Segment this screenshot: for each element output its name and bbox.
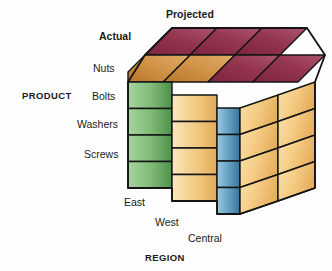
front-column-west: [172, 95, 217, 201]
data-cube-figure: Projected Actual PRODUCT Nuts Bolts Wash…: [0, 0, 332, 271]
measure-label-projected: Projected: [166, 8, 214, 20]
cell-central-washers: [217, 161, 240, 188]
right-side-face: [240, 82, 315, 214]
product-tick-screws: Screws: [84, 148, 118, 160]
axis-label-region: REGION: [145, 252, 185, 263]
front-column-central: [217, 108, 240, 214]
product-tick-washers: Washers: [77, 118, 118, 130]
top-face-projected-row-step: [163, 55, 325, 82]
cube-svg: [0, 0, 332, 271]
cell-east-washers: [128, 135, 172, 162]
cell-central-screws: [217, 188, 240, 215]
region-tick-central: Central: [188, 232, 222, 244]
cell-west-washers: [172, 148, 217, 175]
cell-central-bolts: [217, 135, 240, 162]
region-tick-west: West: [155, 216, 179, 228]
cell-east-nuts: [128, 82, 172, 109]
front-column-east: [128, 82, 172, 188]
cell-west-screws: [172, 175, 217, 202]
cell-east-screws: [128, 162, 172, 189]
cell-west-bolts: [172, 122, 217, 149]
measure-label-actual: Actual: [99, 30, 131, 42]
cell-east-bolts: [128, 109, 172, 136]
top-face-projected-row: [145, 28, 307, 55]
product-tick-nuts: Nuts: [93, 62, 115, 74]
axis-label-product: PRODUCT: [22, 90, 72, 101]
cell-central-nuts: [217, 108, 240, 135]
product-tick-bolts: Bolts: [92, 90, 115, 102]
region-tick-east: East: [124, 196, 145, 208]
cell-west-nuts: [172, 95, 217, 122]
